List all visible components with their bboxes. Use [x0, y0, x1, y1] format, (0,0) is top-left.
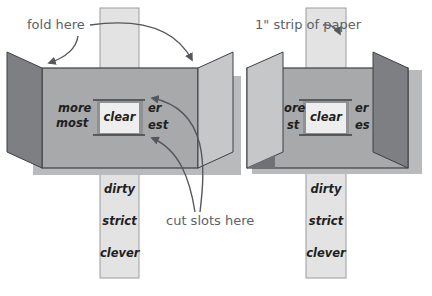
right-flaps-overlay	[0, 0, 432, 296]
right-fold-flap-left	[247, 52, 283, 168]
right-fold-flap-right	[373, 52, 408, 168]
